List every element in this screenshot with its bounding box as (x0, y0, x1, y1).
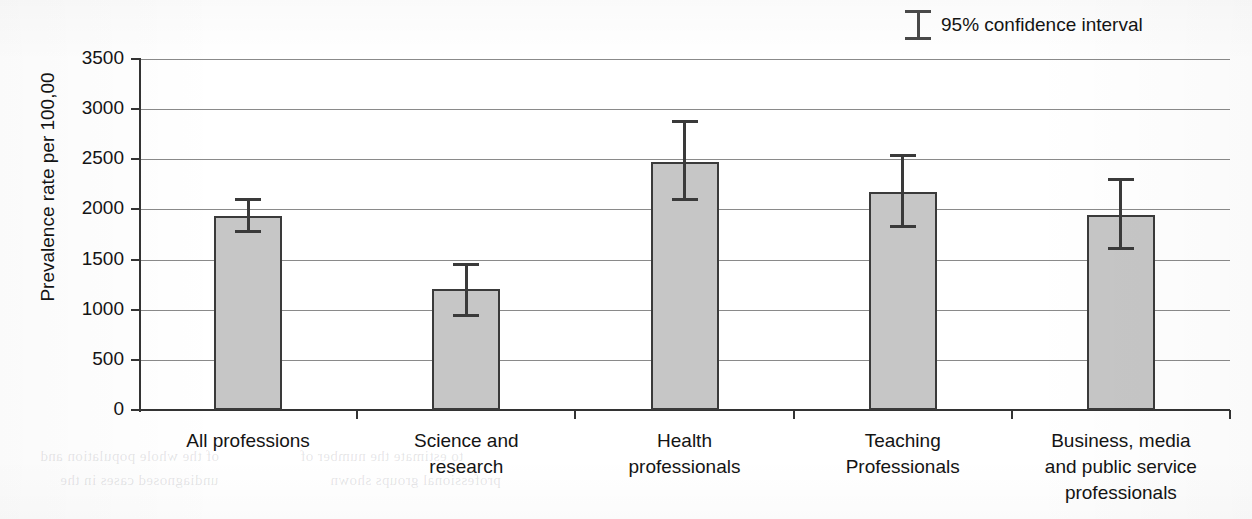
category-label-line: research (351, 454, 581, 480)
x-axis-tick (793, 410, 795, 419)
y-axis-tick (131, 359, 140, 361)
y-axis-tick-label: 3500 (40, 47, 124, 69)
x-axis-tick (356, 410, 358, 419)
plot-area (139, 59, 1230, 410)
gridline (139, 59, 1230, 60)
y-axis-tick-label: 3000 (40, 97, 124, 119)
y-axis-tick-label: 2500 (40, 147, 124, 169)
error-bar-icon (905, 10, 931, 40)
category-label-line: All professions (133, 428, 363, 454)
y-axis-tick (131, 108, 140, 110)
y-axis-tick-label: 1000 (40, 298, 124, 320)
y-axis-title: Prevalence rate per 100,00 (37, 37, 59, 337)
error-bar-1 (235, 198, 261, 233)
legend-label-confidence-interval: 95% confidence interval (941, 14, 1143, 36)
category-label-line: professionals (996, 480, 1246, 506)
error-bar-5 (1108, 178, 1134, 249)
x-axis-tick (1011, 410, 1013, 419)
x-axis-category-label-5: Business, mediaand public serviceprofess… (996, 428, 1246, 506)
error-bar-3 (672, 120, 698, 201)
y-axis-tick-label: 2000 (40, 197, 124, 219)
y-axis-tick-label: 500 (40, 348, 124, 370)
x-axis-tick (574, 410, 576, 419)
error-bar-4 (890, 154, 916, 228)
x-axis-category-label-3: Healthprofessionals (570, 428, 800, 480)
y-axis-tick (131, 259, 140, 261)
x-axis-category-label-1: All professions (133, 428, 363, 454)
y-axis-tick (131, 158, 140, 160)
x-axis-category-label-4: TeachingProfessionals (788, 428, 1018, 480)
bar-chart: 95% confidence interval Prevalence rate … (0, 0, 1252, 519)
category-label-line: Teaching (788, 428, 1018, 454)
y-axis-tick-label: 0 (40, 398, 124, 420)
category-label-line: professionals (570, 454, 800, 480)
y-axis-tick-label: 1500 (40, 248, 124, 270)
y-axis-tick (131, 409, 140, 411)
category-label-line: Health (570, 428, 800, 454)
chart-legend: 95% confidence interval (905, 10, 1143, 40)
y-axis-tick (131, 309, 140, 311)
category-label-line: Business, media (996, 428, 1246, 454)
error-bar-2 (453, 263, 479, 317)
bar-1 (214, 216, 282, 410)
category-label-line: and public service (996, 454, 1246, 480)
y-axis-tick (131, 58, 140, 60)
category-label-line: Science and (351, 428, 581, 454)
gridline (139, 109, 1230, 110)
x-axis-tick (1229, 410, 1231, 419)
x-axis-category-label-2: Science andresearch (351, 428, 581, 480)
category-label-line: Professionals (788, 454, 1018, 480)
y-axis-tick (131, 208, 140, 210)
